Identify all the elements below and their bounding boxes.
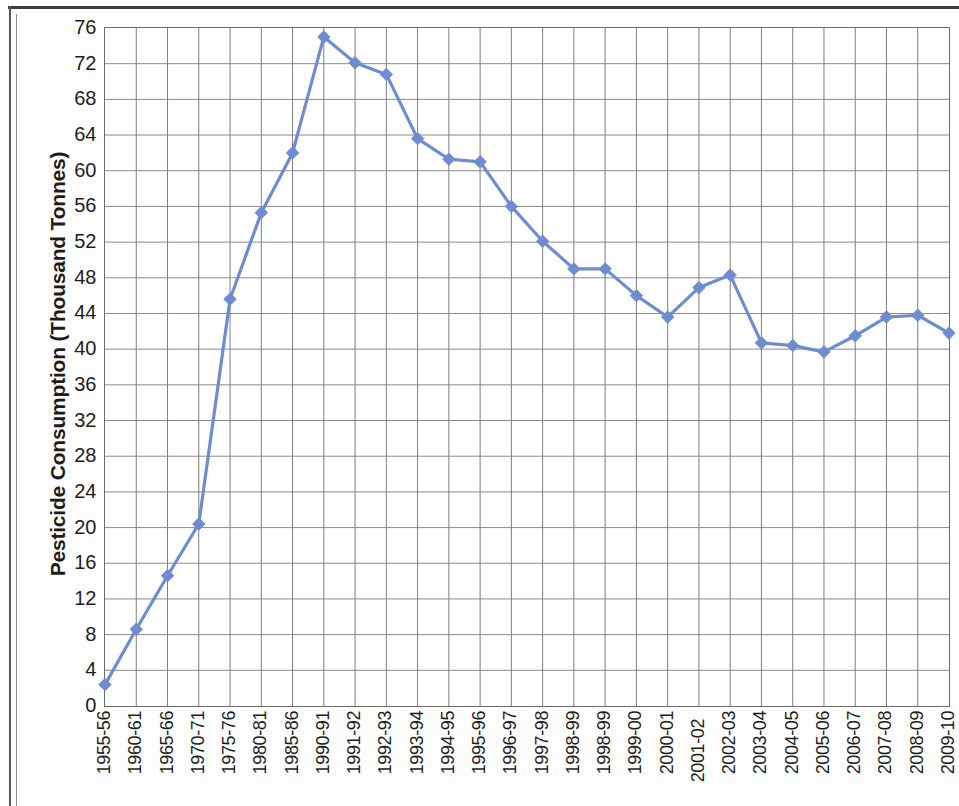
- x-axis-tick-label: 2004-05: [785, 705, 799, 805]
- series-line: [105, 37, 949, 685]
- x-axis-tick-label-text: 1995-96: [469, 711, 490, 774]
- y-axis-tick-label: 60: [44, 158, 96, 181]
- x-axis-tick-label-text: 2009-10: [938, 711, 959, 774]
- y-axis-tick-label: 76: [44, 16, 96, 39]
- y-axis-tick-label: 72: [44, 51, 96, 74]
- x-axis-tick-label-text: 2000-01: [656, 711, 677, 774]
- y-axis-tick-label: 44: [44, 301, 96, 324]
- x-axis-tick-label: 1998-99: [566, 705, 580, 805]
- y-axis-tick-label: 68: [44, 87, 96, 110]
- x-axis-tick-label-text: 2001-02: [687, 719, 708, 782]
- data-series-pesticide-consumption: [105, 28, 949, 706]
- scan-left-border: [9, 6, 11, 806]
- y-axis-tick-label: 32: [44, 408, 96, 431]
- x-axis-tick-label-text: 1990-91: [312, 711, 333, 774]
- y-axis-tick-label: 28: [44, 444, 96, 467]
- data-point-marker: [787, 339, 799, 351]
- x-axis-tick-label: 2003-04: [753, 705, 767, 805]
- y-axis-tick-label: 52: [44, 230, 96, 253]
- x-axis-tick-label-text: 1999-00: [625, 711, 646, 774]
- data-point-marker: [724, 269, 736, 281]
- y-axis-tick-label: 40: [44, 337, 96, 360]
- x-axis-tick-label: 1999-00: [628, 705, 642, 805]
- x-axis-tick-label-text: 1996-97: [500, 711, 521, 774]
- chart-page: Pesticide Consumption (Thousand Tonnes) …: [0, 0, 959, 806]
- x-axis-tick-label: 1960-61: [128, 705, 142, 805]
- x-axis-tick-label: 2007-08: [878, 705, 892, 805]
- x-axis-tick-label: 2002-03: [722, 705, 736, 805]
- x-axis-tick-label-text: 1997-98: [531, 711, 552, 774]
- scan-top-border: [8, 6, 959, 9]
- x-axis-tick-label-text: 1993-94: [406, 711, 427, 774]
- x-axis-tick-label: 1994-95: [441, 705, 455, 805]
- x-axis-tick-label: 2008-09: [910, 705, 924, 805]
- x-axis-tick-label-text: 2003-04: [750, 711, 771, 774]
- y-axis-tick-labels: 7672686460565248444036322824201612840: [44, 0, 96, 806]
- x-axis-tick-label: 1985-86: [285, 705, 299, 805]
- y-axis-tick-label: 64: [44, 123, 96, 146]
- x-axis-tick-label-text: 1970-71: [187, 711, 208, 774]
- x-axis-tick-label-text: 1960-61: [125, 711, 146, 774]
- y-axis-tick-label: 4: [44, 658, 96, 681]
- x-axis-tick-label: 1993-94: [410, 705, 424, 805]
- x-axis-tick-label-text: 1975-76: [219, 711, 240, 774]
- x-axis-tick-label: 1980-81: [253, 705, 267, 805]
- x-axis-tick-label: 1965-66: [160, 705, 174, 805]
- data-point-marker: [99, 678, 111, 690]
- x-axis-tick-label-text: 2006-07: [844, 711, 865, 774]
- x-axis-tick-label-text: 2007-08: [875, 711, 896, 774]
- x-axis-tick-label-text: 2005-06: [812, 711, 833, 774]
- x-axis-tick-label: 1992-93: [378, 705, 392, 805]
- y-axis-tick-label: 56: [44, 194, 96, 217]
- x-axis-tick-label-text: 2002-03: [719, 711, 740, 774]
- x-axis-tick-label: 2006-07: [847, 705, 861, 805]
- x-axis-tick-label: 1955-56: [97, 705, 111, 805]
- y-axis-tick-label: 20: [44, 515, 96, 538]
- data-point-marker: [380, 68, 392, 80]
- x-axis-tick-label-text: 1985-86: [281, 711, 302, 774]
- x-axis-tick-label-text: 1998-99: [594, 711, 615, 774]
- x-axis-tick-label: 1991-92: [347, 705, 361, 805]
- data-point-marker: [286, 147, 298, 159]
- data-point-marker: [943, 327, 955, 339]
- scan-left-border-inner: [16, 14, 17, 806]
- y-axis-tick-label: 0: [44, 694, 96, 717]
- x-axis-tick-label-text: 1980-81: [250, 711, 271, 774]
- y-axis-tick-label: 36: [44, 372, 96, 395]
- data-point-marker: [224, 293, 236, 305]
- data-point-marker: [255, 206, 267, 218]
- x-axis-tick-label: 1975-76: [222, 705, 236, 805]
- x-axis-tick-labels: 1955-561960-611965-661970-711975-761980-…: [104, 705, 948, 806]
- x-axis-tick-label-text: 2008-09: [906, 711, 927, 774]
- x-axis-tick-label-text: 1994-95: [437, 711, 458, 774]
- x-axis-tick-label: 2001-02: [691, 705, 705, 805]
- x-axis-tick-label: 1997-98: [535, 705, 549, 805]
- data-point-marker: [818, 346, 830, 358]
- x-axis-tick-label-text: 1991-92: [344, 711, 365, 774]
- x-axis-tick-label: 2005-06: [816, 705, 830, 805]
- x-axis-tick-label: 1970-71: [191, 705, 205, 805]
- y-axis-tick-label: 8: [44, 622, 96, 645]
- x-axis-tick-label-text: 2004-05: [781, 711, 802, 774]
- x-axis-tick-label-text: 1992-93: [375, 711, 396, 774]
- x-axis-tick-label: 2009-10: [941, 705, 955, 805]
- y-axis-tick-label: 12: [44, 586, 96, 609]
- plot-area: [104, 27, 950, 707]
- data-point-marker: [912, 309, 924, 321]
- x-axis-tick-label: 2000-01: [660, 705, 674, 805]
- x-axis-tick-label: 1996-97: [503, 705, 517, 805]
- x-axis-tick-label: 1990-91: [316, 705, 330, 805]
- data-point-marker: [755, 337, 767, 349]
- x-axis-tick-label: 1998-99: [597, 705, 611, 805]
- y-axis-tick-label: 24: [44, 479, 96, 502]
- y-axis-tick-label: 48: [44, 265, 96, 288]
- y-axis-tick-label: 16: [44, 551, 96, 574]
- x-axis-tick-label-text: 1998-99: [562, 711, 583, 774]
- x-axis-tick-label-text: 1965-66: [156, 711, 177, 774]
- x-axis-tick-label: 1995-96: [472, 705, 486, 805]
- x-axis-tick-label-text: 1955-56: [94, 711, 115, 774]
